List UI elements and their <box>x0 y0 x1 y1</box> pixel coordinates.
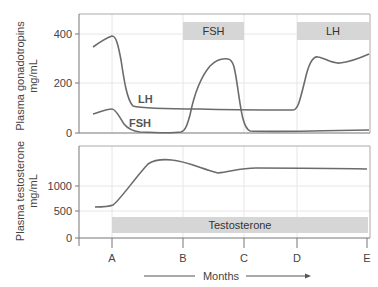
xtick-label-e: E <box>363 252 370 264</box>
xtick-label-c: C <box>240 252 248 264</box>
ytick-label-200: 200 <box>54 77 72 89</box>
lh-line <box>93 36 369 110</box>
lh-bar-label: LH <box>326 25 340 37</box>
x-axis-label: Months <box>203 270 240 282</box>
bottom-y-axis-label: Plasma testosterone mg/mL <box>14 141 39 241</box>
testosterone-panel: Testosterone 1000 500 0 Plasma testoster… <box>14 141 371 282</box>
svg-text:Plasma gonadotropins: Plasma gonadotropins <box>14 21 26 131</box>
svg-text:mg/mL: mg/mL <box>27 174 39 208</box>
ytick-label-500: 500 <box>54 205 72 217</box>
ytick-label-0: 0 <box>66 127 72 139</box>
chart-figure: FSH LH 400 200 0 Plasma gonadotropins mg… <box>0 0 378 287</box>
ytick-label-400: 400 <box>54 28 72 40</box>
xtick-label-d: D <box>293 252 301 264</box>
fsh-bar-label: FSH <box>203 25 225 37</box>
xtick-label-a: A <box>108 252 116 264</box>
testosterone-bar-label: Testosterone <box>209 219 272 231</box>
svg-text:Plasma testosterone: Plasma testosterone <box>14 141 26 241</box>
xtick-label-b: B <box>179 252 186 264</box>
ytick-label-1000: 1000 <box>48 180 72 192</box>
lh-series-label: LH <box>138 93 153 105</box>
gonadotropins-panel: FSH LH 400 200 0 Plasma gonadotropins mg… <box>14 14 370 139</box>
ytick-label-0: 0 <box>66 232 72 244</box>
arrow-right-icon <box>305 274 311 279</box>
top-y-axis-label: Plasma gonadotropins mg/mL <box>14 21 39 131</box>
fsh-series-label: FSH <box>129 117 151 129</box>
testosterone-line <box>95 160 367 207</box>
svg-text:mg/mL: mg/mL <box>27 59 39 93</box>
